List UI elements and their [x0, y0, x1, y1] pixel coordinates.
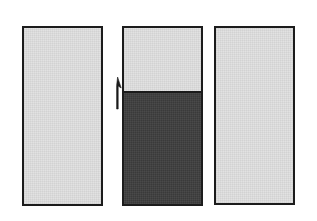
panel-middle-dark-fill [124, 91, 201, 204]
level-arrow-icon [112, 76, 124, 110]
panel-middle [122, 26, 203, 206]
level-arrow-path [117, 77, 122, 109]
panel-left [22, 26, 103, 206]
figure-canvas [0, 0, 317, 221]
panel-right [214, 26, 295, 205]
